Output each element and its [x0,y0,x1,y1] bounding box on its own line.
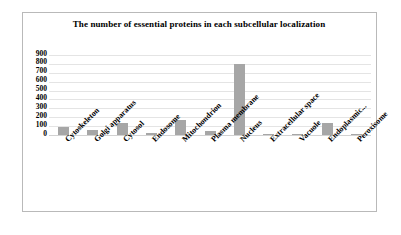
bar [117,123,128,135]
bar [263,134,274,135]
y-axis: 9008007006005004003002001000 [23,53,47,135]
y-axis-tick-label: 800 [23,58,47,66]
bar [234,64,245,135]
plot-area [49,55,371,135]
plot-wrapper: 9008007006005004003002001000 Cytoskeleto… [23,13,376,211]
y-axis-tick-label: 900 [23,50,47,58]
y-axis-tick-label: 600 [23,76,47,84]
bar [322,123,333,135]
y-axis-tick-label: 500 [23,85,47,93]
y-axis-tick-label: 400 [23,94,47,102]
axis-baseline [49,135,371,136]
bar-series [49,55,371,135]
y-axis-tick-label: 300 [23,103,47,111]
y-axis-tick-label: 700 [23,67,47,75]
y-axis-tick-label: 200 [23,112,47,120]
bar [175,120,186,135]
y-axis-tick-label: 100 [23,121,47,129]
bar [205,131,216,135]
bar [351,134,362,135]
bar [87,130,98,135]
y-axis-tick-label: 0 [23,130,47,138]
bar [58,127,69,135]
chart-frame: The number of essential proteins in each… [22,12,377,212]
bar [146,133,157,135]
bar [292,134,303,135]
